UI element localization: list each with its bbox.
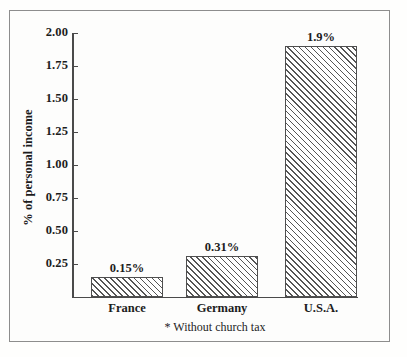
y-tick-2-00	[72, 33, 78, 35]
bar-usa	[285, 46, 357, 297]
chart-footnote: * Without church tax	[72, 320, 358, 335]
y-tick-1-75	[72, 66, 78, 68]
y-tick-label-2-00: 2.00	[24, 25, 68, 40]
bar-germany	[186, 256, 258, 297]
category-label-germany: Germany	[186, 301, 258, 316]
y-tick-0-50	[72, 231, 78, 233]
category-label-usa: U.S.A.	[285, 301, 357, 316]
bar-france	[91, 277, 163, 297]
y-tick-1-50	[72, 99, 78, 101]
y-axis-title: % of personal income	[21, 78, 36, 258]
bar-chart-plot: 2.00 1.75 1.50 1.25 1.00 0.75 0.50 0.25 …	[0, 0, 407, 357]
y-tick-1-25	[72, 132, 78, 134]
y-tick-1-00	[72, 165, 78, 167]
y-tick-label-0-25: 0.25	[24, 256, 68, 271]
category-label-france: France	[91, 301, 163, 316]
y-tick-label-1-75: 1.75	[24, 58, 68, 73]
bar-value-usa: 1.9%	[285, 30, 357, 45]
bar-value-france: 0.15%	[91, 261, 163, 276]
y-tick-0-75	[72, 198, 78, 200]
y-tick-0-25	[72, 264, 78, 266]
bar-value-germany: 0.31%	[186, 240, 258, 255]
chart-page: 2.00 1.75 1.50 1.25 1.00 0.75 0.50 0.25 …	[0, 0, 407, 357]
